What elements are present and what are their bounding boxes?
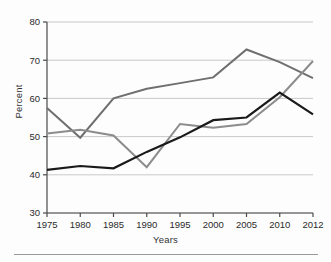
y-tick-label-50: 50 [29,131,40,142]
axis-lines-group [47,22,313,213]
x-tick-label-1990: 1990 [136,219,157,230]
x-tick-label-1980: 1980 [70,219,91,230]
line-series-2 [47,61,313,167]
x-tick-label-2000: 2000 [203,219,224,230]
line-chart-plot: 304050607080 197519801985199019952000200… [0,0,331,262]
y-axis-ticks-group: 304050607080 [29,16,47,218]
y-tick-label-80: 80 [29,16,40,27]
data-series-group [47,50,313,170]
y-tick-label-70: 70 [29,55,40,66]
x-tick-label-2005: 2005 [236,219,257,230]
x-tick-label-1975: 1975 [36,219,57,230]
y-axis-label: Percent [13,62,24,142]
x-tick-label-1985: 1985 [103,219,124,230]
x-tick-label-2010: 2010 [269,219,290,230]
chart-figure: 304050607080 197519801985199019952000200… [0,0,331,262]
x-axis-label: Years [0,234,331,245]
gridlines-group [47,22,313,213]
y-tick-label-60: 60 [29,93,40,104]
x-tick-label-1995: 1995 [169,219,190,230]
y-tick-label-30: 30 [29,207,40,218]
bottom-rule [14,254,318,255]
y-tick-label-40: 40 [29,169,40,180]
x-tick-label-2012: 2012 [302,219,323,230]
x-axis-ticks-group: 197519801985199019952000200520102012 [36,213,323,230]
